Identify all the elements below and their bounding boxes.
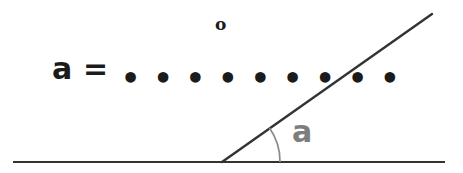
answer-blank-dots[interactable]: • • • • • • • • •	[121, 64, 401, 94]
answer-prompt: a = • • • • • • • • • o	[52, 28, 242, 76]
angle-worksheet: a a = • • • • • • • • • o	[0, 0, 463, 173]
equals-sign: =	[83, 54, 108, 84]
degree-symbol: o	[215, 16, 226, 33]
answer-variable-label: a	[52, 54, 72, 84]
angle-arc	[270, 128, 281, 162]
angle-label: a	[292, 117, 312, 147]
